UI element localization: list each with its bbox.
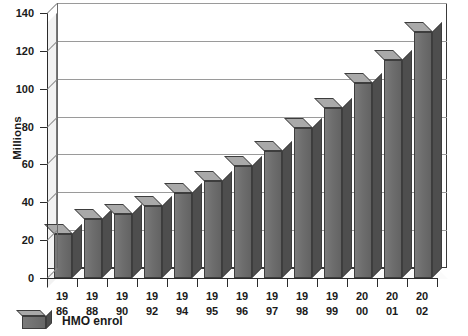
bar-front-face	[204, 181, 223, 278]
x-tick-mark-6	[227, 278, 228, 287]
x-tick-label-line-2: 02	[407, 304, 437, 319]
y-tick-label-60: 60	[0, 158, 34, 170]
x-tick-mark-12	[407, 278, 408, 287]
y-tick-label-20: 20	[0, 234, 34, 246]
x-tick-label-line-2: 00	[347, 304, 377, 319]
y-tick-mark-60	[40, 164, 47, 165]
x-tick-label-line-2: 97	[257, 304, 287, 319]
x-tick-label-line-1: 19	[107, 289, 137, 304]
x-tick-mark-1	[77, 278, 78, 287]
bar-2001	[384, 60, 403, 278]
bar-front-face	[264, 151, 283, 278]
bar-front-face	[324, 108, 343, 278]
bar-side-face	[222, 171, 232, 278]
x-tick-label-line-1: 19	[167, 289, 197, 304]
x-tick-label-line-1: 20	[407, 289, 437, 304]
x-tick-label-line-2: 96	[227, 304, 257, 319]
bar-front-face	[114, 214, 133, 278]
hmo-enrol-swatch	[22, 315, 46, 329]
x-tick-label-line-1: 20	[377, 289, 407, 304]
y-tick-label-0: 0	[0, 272, 34, 284]
y-tick-label-80: 80	[0, 121, 34, 133]
x-tick-mark-8	[287, 278, 288, 287]
x-tick-label-1994: 1994	[167, 289, 197, 319]
x-tick-label-line-2: 94	[167, 304, 197, 319]
x-tick-label-1992: 1992	[137, 289, 167, 319]
gridline-120	[57, 41, 447, 42]
y-axis-depth-connector	[47, 3, 58, 14]
x-tick-label-line-1: 19	[77, 289, 107, 304]
x-tick-label-2000: 2000	[347, 289, 377, 319]
x-tick-label-line-2: 99	[317, 304, 347, 319]
bar-front-face	[84, 219, 103, 278]
bar-2000	[354, 83, 373, 278]
x-tick-label-line-1: 19	[47, 289, 77, 304]
x-tick-label-line-1: 19	[317, 289, 347, 304]
x-tick-label-line-2: 98	[287, 304, 317, 319]
x-tick-label-line-1: 19	[287, 289, 317, 304]
x-tick-label-1998: 1998	[287, 289, 317, 319]
x-tick-label-2002: 2002	[407, 289, 437, 319]
x-tick-mark-7	[257, 278, 258, 287]
x-tick-mark-4	[167, 278, 168, 287]
bar-side-face	[192, 183, 202, 278]
gridline-140	[57, 3, 447, 4]
bar-front-face	[144, 206, 163, 278]
x-tick-label-line-1: 19	[197, 289, 227, 304]
bar-front-face	[234, 166, 253, 278]
bar-side-face	[432, 22, 442, 278]
x-tick-label-2001: 2001	[377, 289, 407, 319]
x-tick-mark-11	[377, 278, 378, 287]
bar-side-face	[312, 118, 322, 278]
x-tick-label-line-1: 19	[137, 289, 167, 304]
x-tick-mark-2	[107, 278, 108, 287]
x-tick-label-1996: 1996	[227, 289, 257, 319]
x-tick-label-line-1: 20	[347, 289, 377, 304]
bar-side-face	[132, 204, 142, 278]
bar-1994	[174, 193, 193, 278]
bar-1999	[324, 108, 343, 278]
bar-chart: Millions 020406080100120140 198619881990…	[0, 0, 468, 336]
x-tick-label-1995: 1995	[197, 289, 227, 319]
swatch-front-face	[22, 316, 46, 329]
bar-1996	[234, 166, 253, 278]
x-tick-label-1997: 1997	[257, 289, 287, 319]
bar-front-face	[174, 193, 193, 278]
bar-1992	[144, 206, 163, 278]
x-tick-label-line-2: 92	[137, 304, 167, 319]
x-tick-label-line-1: 19	[257, 289, 287, 304]
bar-1995	[204, 181, 223, 278]
y-tick-label-140: 140	[0, 7, 34, 19]
bar-1998	[294, 128, 313, 278]
x-tick-label-line-2: 95	[197, 304, 227, 319]
x-tick-label-line-2: 01	[377, 304, 407, 319]
bar-side-face	[282, 141, 292, 278]
bar-front-face	[414, 32, 433, 278]
bar-1990	[114, 214, 133, 278]
bar-front-face	[384, 60, 403, 278]
bar-side-face	[162, 196, 172, 278]
x-tick-mark-0	[47, 278, 48, 287]
bar-side-face	[372, 73, 382, 278]
bar-side-face	[102, 209, 112, 278]
y-axis-tick-labels: 020406080100120140	[0, 0, 34, 336]
x-tick-mark-13	[437, 278, 438, 287]
bar-1988	[84, 219, 103, 278]
plot-area	[47, 3, 447, 288]
y-tick-label-40: 40	[0, 196, 34, 208]
x-tick-mark-10	[347, 278, 348, 287]
x-tick-mark-3	[137, 278, 138, 287]
bar-1997	[264, 151, 283, 278]
y-axis-line-back	[57, 3, 58, 268]
y-tick-label-100: 100	[0, 83, 34, 95]
x-tick-mark-9	[317, 278, 318, 287]
bar-side-face	[402, 50, 412, 278]
bar-front-face	[294, 128, 313, 278]
bar-front-face	[354, 83, 373, 278]
bar-2002	[414, 32, 433, 278]
x-tick-label-1999: 1999	[317, 289, 347, 319]
x-tick-label-line-1: 19	[227, 289, 257, 304]
x-tick-mark-5	[197, 278, 198, 287]
bar-side-face	[342, 98, 352, 278]
legend-entry-label: HMO enrol	[62, 314, 123, 328]
